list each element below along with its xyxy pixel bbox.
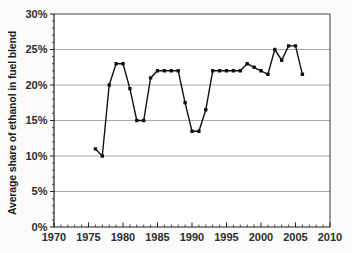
data-point-1979 [114, 62, 117, 65]
data-point-2002 [273, 48, 276, 51]
data-point-1994 [218, 69, 221, 72]
data-point-1986 [163, 69, 166, 72]
data-point-1993 [211, 69, 214, 72]
data-point-1992 [204, 108, 207, 111]
x-tick-label-1975: 1975 [76, 231, 100, 243]
data-point-1999 [252, 66, 255, 69]
data-point-1987 [170, 69, 173, 72]
y-tick-label-20: 20% [25, 79, 47, 91]
data-point-1981 [128, 87, 131, 90]
data-point-1989 [183, 101, 186, 104]
data-point-1997 [239, 69, 242, 72]
data-point-1977 [101, 154, 104, 157]
x-tick-label-2000: 2000 [249, 231, 273, 243]
data-point-1983 [142, 119, 145, 122]
x-tick-label-1970: 1970 [42, 231, 66, 243]
data-point-1996 [232, 69, 235, 72]
data-point-1980 [121, 62, 124, 65]
y-tick-label-5: 5% [32, 185, 48, 197]
y-tick-label-25: 25% [25, 43, 47, 55]
data-point-1991 [197, 130, 200, 133]
y-tick-label-30: 30% [25, 8, 47, 20]
data-point-2004 [287, 44, 290, 47]
data-point-1978 [108, 83, 111, 86]
x-tick-label-1980: 1980 [111, 231, 135, 243]
data-point-2000 [259, 69, 262, 72]
data-point-2003 [280, 59, 283, 62]
y-tick-label-15: 15% [25, 114, 47, 126]
x-tick-label-1990: 1990 [180, 231, 204, 243]
data-point-1988 [177, 69, 180, 72]
y-axis-title: Average share of ethanol in fuel blend [6, 13, 20, 233]
data-point-2005 [294, 44, 297, 47]
x-tick-label-2005: 2005 [283, 231, 307, 243]
chart: Average share of ethanol in fuel blend 0… [0, 0, 352, 253]
data-point-1976 [94, 147, 97, 150]
x-tick-label-1995: 1995 [214, 231, 238, 243]
data-point-1982 [135, 119, 138, 122]
ethanol-share-line-chart: 0%5%10%15%20%25%30%197019751980198519901… [0, 0, 352, 253]
data-point-1984 [149, 76, 152, 79]
x-tick-label-2010: 2010 [318, 231, 342, 243]
data-point-1998 [246, 62, 249, 65]
x-tick-label-1985: 1985 [145, 231, 169, 243]
data-point-1990 [190, 130, 193, 133]
data-point-2006 [301, 73, 304, 76]
data-point-2001 [266, 73, 269, 76]
y-tick-label-10: 10% [25, 150, 47, 162]
data-point-1985 [156, 69, 159, 72]
data-point-1995 [225, 69, 228, 72]
